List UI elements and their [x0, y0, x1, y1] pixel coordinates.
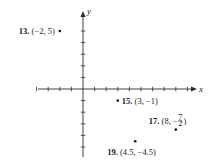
point-label: 19. (4.5, −4.5) — [107, 147, 156, 157]
point-coords: (−2, 5) — [32, 26, 55, 36]
data-point — [134, 140, 137, 143]
point-number: 19. — [107, 147, 120, 157]
data-point — [175, 128, 178, 131]
coordinate-plane: 13. (−2, 5)15. (3, −1)17. (8, −72)19. (4… — [0, 0, 211, 164]
point-number: 15. — [122, 96, 135, 106]
fraction-denominator: 2 — [178, 118, 182, 128]
axes — [38, 11, 197, 157]
y-axis-arrow — [81, 11, 86, 17]
point-coords: (3, −1) — [135, 96, 158, 106]
x-axis-label: x — [198, 84, 203, 94]
point-number: 13. — [19, 26, 32, 36]
point-label: 13. (−2, 5) — [19, 26, 55, 36]
point-label: 17. (8, − — [149, 116, 178, 126]
point-labels: 13. (−2, 5)15. (3, −1)17. (8, −72)19. (4… — [19, 26, 187, 157]
data-point — [59, 30, 62, 33]
point-label: 15. (3, −1) — [122, 96, 158, 106]
x-axis-arrow — [191, 87, 197, 92]
point-coords: (8, − — [162, 116, 178, 126]
y-axis-label: y — [86, 6, 91, 16]
point-number: 17. — [149, 116, 162, 126]
point-coords-suffix: ) — [184, 116, 187, 126]
fraction: 72) — [178, 112, 186, 128]
point-coords: (4.5, −4.5) — [120, 147, 156, 157]
data-point — [117, 99, 120, 102]
